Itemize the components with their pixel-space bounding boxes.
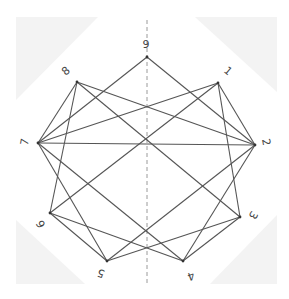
corner-shade-bottom-right bbox=[210, 215, 277, 284]
node-1 bbox=[217, 82, 220, 85]
node-5 bbox=[106, 260, 109, 263]
edge-8-3 bbox=[77, 82, 240, 217]
edge-8-6 bbox=[50, 82, 77, 213]
node-8 bbox=[76, 81, 79, 84]
node-9 bbox=[146, 56, 149, 59]
corner-shade-top-right bbox=[195, 17, 277, 92]
edge-9-7 bbox=[38, 57, 147, 143]
node-2 bbox=[254, 144, 257, 147]
corner-shade-bottom-left bbox=[16, 220, 85, 284]
node-4 bbox=[182, 260, 185, 263]
node-3 bbox=[239, 216, 242, 219]
edges bbox=[38, 57, 255, 261]
node-6 bbox=[49, 212, 52, 215]
node-label-9: 9 bbox=[143, 39, 150, 50]
edge-5-3 bbox=[107, 217, 240, 261]
corner-shade-top-left bbox=[16, 17, 98, 100]
edge-7-2 bbox=[38, 143, 255, 145]
edge-8-2 bbox=[77, 82, 255, 145]
edge-5-2 bbox=[107, 145, 255, 261]
edge-1-7 bbox=[38, 83, 218, 143]
edge-1-3 bbox=[218, 83, 240, 217]
edge-4-2 bbox=[183, 145, 255, 261]
edge-6-5 bbox=[50, 213, 107, 261]
graph-diagram: 123456789 bbox=[0, 0, 289, 299]
edge-7-5 bbox=[38, 143, 107, 261]
edge-4-3 bbox=[183, 217, 240, 261]
node-7 bbox=[37, 142, 40, 145]
